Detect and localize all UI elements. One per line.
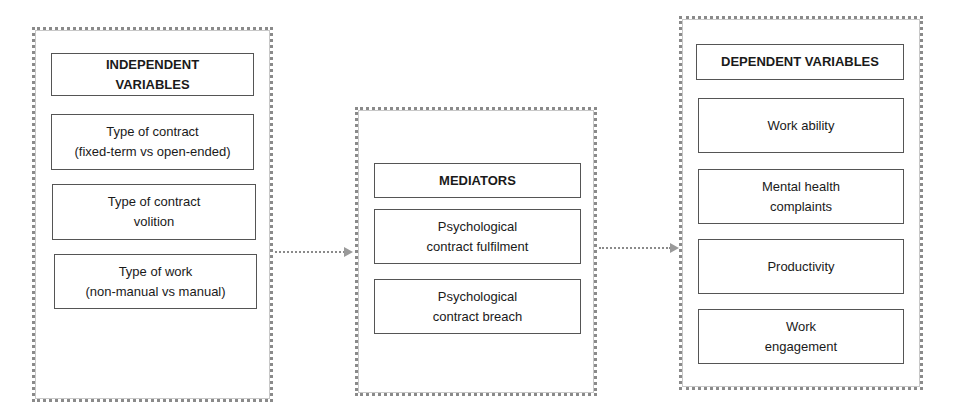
- independent-variables-title: INDEPENDENT VARIABLES: [51, 53, 254, 96]
- node-psychological-contract-breach: Psychological contract breach: [374, 279, 581, 334]
- mediators-panel: MEDIATORS Psychological contract fulfilm…: [355, 107, 597, 396]
- node-work-engagement: Work engagement: [698, 309, 904, 364]
- node-psychological-contract-fulfilment: Psychological contract fulfilment: [374, 209, 581, 264]
- dependent-variables-panel: DEPENDENT VARIABLES Work ability Mental …: [679, 16, 923, 390]
- node-productivity: Productivity: [698, 239, 904, 294]
- node-type-of-work: Type of work (non-manual vs manual): [54, 254, 257, 309]
- dependent-variables-title: DEPENDENT VARIABLES: [696, 44, 904, 80]
- independent-variables-panel: INDEPENDENT VARIABLES Type of contract (…: [32, 27, 273, 402]
- node-work-ability: Work ability: [698, 98, 904, 153]
- node-mental-health-complaints: Mental health complaints: [698, 169, 904, 224]
- mediators-title: MEDIATORS: [374, 163, 581, 198]
- arrow-independent-to-mediators: [275, 251, 345, 253]
- arrow-mediators-to-dependent: [599, 247, 671, 249]
- node-type-of-contract-volition: Type of contract volition: [52, 184, 256, 240]
- node-type-of-contract: Type of contract (fixed-term vs open-end…: [51, 114, 254, 170]
